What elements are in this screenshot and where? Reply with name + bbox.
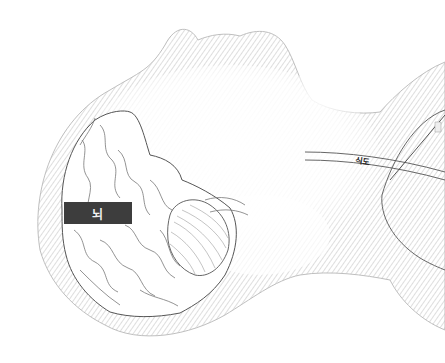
brain-label-text: 뇌 (92, 205, 104, 222)
esophagus-label: 식도 (354, 154, 369, 167)
anatomy-illustration: 뇌 식도 (0, 0, 445, 363)
head-neck-drawing (0, 0, 445, 363)
brain-label: 뇌 (64, 202, 132, 224)
